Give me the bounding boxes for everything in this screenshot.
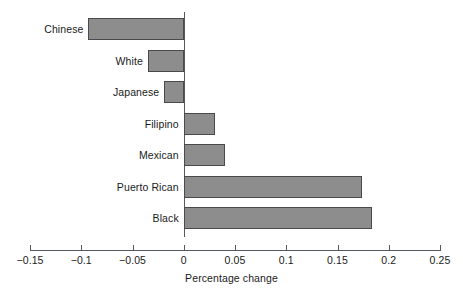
bar: [164, 81, 183, 103]
x-axis: Percentage change −0.15−0.1−0.0500.050.1…: [0, 250, 463, 300]
x-tick-mark: [286, 245, 287, 251]
x-tick-label: 0.2: [381, 254, 396, 266]
category-label-mexican: Mexican: [139, 149, 179, 161]
bar-row: Filipino: [0, 113, 463, 135]
bar-row: Chinese: [0, 18, 463, 40]
bar-row: Puerto Rican: [0, 176, 463, 198]
category-label-filipino: Filipino: [145, 118, 179, 130]
bar: [88, 18, 183, 40]
bar: [184, 144, 225, 166]
x-tick-label: −0.1: [71, 254, 92, 266]
x-tick-label: 0.25: [430, 254, 451, 266]
category-label-chinese: Chinese: [44, 23, 83, 35]
x-tick-mark: [184, 245, 185, 251]
x-tick-mark: [133, 245, 134, 251]
bar: [184, 207, 373, 229]
category-label-japanese: Japanese: [113, 86, 159, 98]
bar: [184, 113, 215, 135]
x-axis-title: Percentage change: [0, 272, 463, 284]
x-tick-label: 0: [181, 254, 187, 266]
x-tick-label: 0.15: [327, 254, 348, 266]
x-tick-mark: [389, 245, 390, 251]
x-tick-label: −0.05: [119, 254, 146, 266]
x-tick-label: 0.05: [225, 254, 246, 266]
plot-area: ChineseWhiteJapaneseFilipinoMexicanPuert…: [0, 0, 463, 250]
bar-chart: ChineseWhiteJapaneseFilipinoMexicanPuert…: [0, 0, 463, 300]
x-tick-mark: [81, 245, 82, 251]
x-tick-label: −0.15: [16, 254, 43, 266]
bar-row: Black: [0, 207, 463, 229]
category-label-white: White: [116, 55, 143, 67]
x-tick-mark: [235, 245, 236, 251]
bar: [184, 176, 362, 198]
x-tick-label: 0.1: [279, 254, 294, 266]
bar-row: Japanese: [0, 81, 463, 103]
x-tick-mark: [338, 245, 339, 251]
bar: [148, 50, 184, 72]
bar-row: White: [0, 50, 463, 72]
x-tick-mark: [440, 245, 441, 251]
bar-row: Mexican: [0, 144, 463, 166]
x-tick-mark: [30, 245, 31, 251]
category-label-puerto-rican: Puerto Rican: [117, 181, 179, 193]
category-label-black: Black: [153, 212, 179, 224]
